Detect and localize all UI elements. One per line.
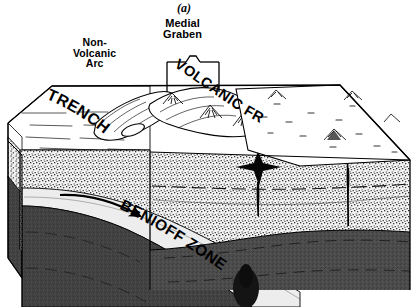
label-medial-graben: Medial Graben (163, 18, 202, 40)
label-benioff-zone: BENIOFF ZONE (118, 196, 230, 273)
panel-label: (a) (177, 2, 191, 14)
curved-labels: TRENCH VOLCANIC FRONT BENIOFF ZONE (0, 0, 417, 307)
label-trench: TRENCH (45, 86, 114, 137)
label-non-volcanic-arc: Non- Volcanic Arc (73, 37, 116, 69)
figure-block-diagram: TRENCH VOLCANIC FRONT BENIOFF ZONE (a) M… (0, 0, 417, 307)
label-volcanic-front: VOLCANIC FRONT (0, 0, 267, 126)
